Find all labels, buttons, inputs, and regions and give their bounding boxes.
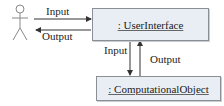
- user-interface-label: : UserInterface: [118, 19, 184, 31]
- computational-object-label: : ComputationalObject: [108, 83, 209, 95]
- output-label-top: Output: [42, 30, 73, 42]
- actor-icon: [12, 5, 28, 40]
- input-label-top: Input: [46, 5, 69, 17]
- output-label-vertical: Output: [150, 53, 181, 65]
- computational-object: : ComputationalObject: [96, 76, 221, 101]
- input-label-vertical: Input: [104, 44, 127, 56]
- user-interface-object: : UserInterface: [92, 8, 209, 41]
